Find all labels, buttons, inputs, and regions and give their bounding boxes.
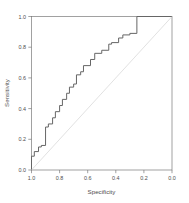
x-tick-label: 0.4 [112,175,120,181]
x-tick-label: 0.8 [56,175,64,181]
y-tick-label: 0.0 [19,167,27,173]
roc-chart-canvas: 1.00.80.60.40.20.00.00.20.40.60.81.0 Spe… [0,0,189,203]
x-tick-label: 0.0 [168,175,176,181]
roc-plot-panel: 1.00.80.60.40.20.00.00.20.40.60.81.0 Spe… [0,0,189,203]
y-axis-title: Sensitivity [3,78,10,107]
x-axis-title: Specificity [88,188,117,195]
x-tick-label: 0.6 [84,175,92,181]
x-tick-label: 1.0 [28,175,36,181]
y-tick-label: 0.4 [19,106,27,112]
y-tick-label: 0.2 [19,136,27,142]
y-tick-label: 0.8 [19,44,27,50]
y-tick-label: 1.0 [19,14,27,20]
y-tick-label: 0.6 [19,75,27,81]
x-tick-label: 0.2 [140,175,148,181]
